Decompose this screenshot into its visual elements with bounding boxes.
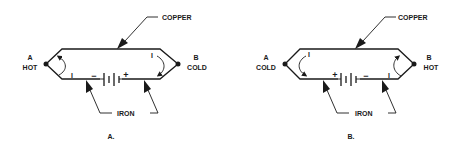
current-arrow-right-icon [157, 56, 164, 75]
current-arrow-left-icon [59, 57, 65, 75]
thermocouple-diagrams: − + A HOT B COLD I I COPPER [0, 0, 454, 148]
battery-icon [100, 73, 122, 86]
battery-negative-sign: − [363, 71, 368, 81]
iron-leader-left-arrow-icon [86, 80, 112, 113]
copper-leader-arrow-icon [355, 17, 396, 49]
iron-label: IRON [355, 110, 373, 117]
copper-leader-arrow-icon [117, 17, 158, 49]
current-label-right: I [151, 52, 153, 59]
battery-negative-sign: − [91, 71, 96, 81]
junction-a-state: COLD [256, 64, 276, 71]
iron-leader-left-arrow-icon [323, 80, 349, 113]
junction-b-dot [412, 62, 417, 67]
junction-b-letter: B [193, 54, 198, 61]
diagram-b: + − A COLD B HOT I I COPPER IRON B. [256, 14, 439, 140]
diagram-a: − + A HOT B COLD I I COPPER [23, 14, 207, 140]
iron-wire [285, 64, 414, 79]
current-arrow-right-icon [394, 57, 401, 76]
battery-positive-sign: + [123, 70, 128, 80]
battery-positive-sign: + [332, 70, 337, 80]
junction-a-state: HOT [23, 64, 39, 71]
battery-icon [338, 73, 360, 86]
current-label-left: I [308, 51, 310, 58]
junction-b-state: COLD [187, 64, 207, 71]
junction-a-dot [283, 62, 288, 67]
junction-b-state: HOT [424, 64, 440, 71]
copper-label: COPPER [398, 14, 428, 21]
iron-leader-right-arrow-icon [144, 80, 158, 113]
copper-label: COPPER [162, 14, 192, 21]
junction-b-letter: B [426, 54, 431, 61]
junction-a-dot [44, 62, 49, 67]
diagram-a-caption: A. [108, 133, 115, 140]
junction-a-letter: A [263, 54, 268, 61]
iron-leader-right-arrow-icon [382, 80, 396, 113]
current-arrow-left-icon [299, 56, 306, 75]
current-label-right: I [388, 72, 390, 79]
junction-b-dot [176, 62, 181, 67]
diagram-b-caption: B. [348, 133, 355, 140]
junction-a-letter: A [27, 54, 32, 61]
current-label-left: I [71, 72, 73, 79]
iron-label: IRON [117, 110, 135, 117]
